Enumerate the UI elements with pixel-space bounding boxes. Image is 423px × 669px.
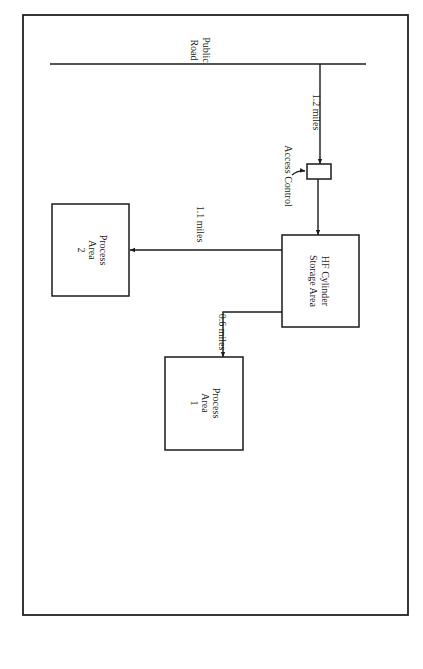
hf-cylinder-storage-label: HF Cylinder Storage Area — [308, 255, 331, 307]
svg-text:2: 2 — [76, 248, 87, 253]
access-control-label: Access Control — [283, 145, 294, 207]
storage-to-pa1-arrow — [223, 312, 282, 357]
svg-text:Process: Process — [211, 388, 222, 419]
public-road-label: Public Road — [189, 37, 212, 63]
access-control-box — [307, 164, 331, 179]
site-layout-diagram: Public Road 1.2 miles Access Control HF … — [0, 0, 423, 669]
svg-text:1: 1 — [189, 401, 200, 406]
svg-text:Area: Area — [87, 240, 98, 260]
distance-label-road: 1.2 miles — [311, 94, 322, 131]
svg-text:Area: Area — [200, 393, 211, 413]
svg-text:Public: Public — [201, 37, 212, 63]
svg-text:HF Cylinder: HF Cylinder — [320, 256, 331, 307]
svg-text:Road: Road — [189, 39, 200, 60]
distance-label-pa1: 0.6 miles — [217, 314, 228, 351]
svg-text:Process: Process — [98, 235, 109, 266]
svg-text:Storage Area: Storage Area — [308, 255, 319, 307]
distance-label-pa2: 1.1 miles — [195, 206, 206, 243]
